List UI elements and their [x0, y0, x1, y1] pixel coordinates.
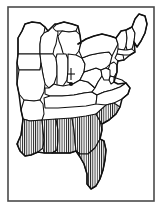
state-indiana: [56, 54, 68, 86]
state-iowa: [17, 54, 41, 70]
state-arkansas: [21, 100, 44, 121]
state-mississippi: [42, 119, 58, 153]
eastern-us-map: [0, 0, 163, 209]
map-figure: [0, 0, 163, 209]
marker-dot: [69, 82, 73, 86]
